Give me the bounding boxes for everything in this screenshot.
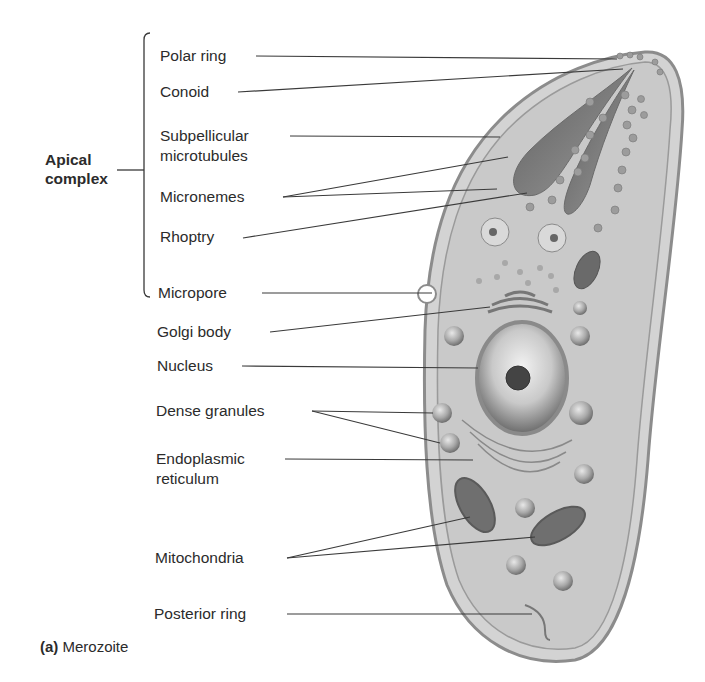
figure-caption: (a) Merozoite (40, 638, 128, 655)
caption-text: Merozoite (63, 638, 129, 655)
nucleus (477, 322, 567, 434)
label-dense-granules: Dense granules (156, 401, 265, 420)
label-conoid: Conoid (160, 82, 209, 101)
label-er-1: Endoplasmic (156, 449, 245, 468)
cell-illustration (0, 0, 705, 682)
caption-letter: (a) (40, 638, 58, 655)
label-rhoptry: Rhoptry (160, 227, 214, 246)
label-er-2: reticulum (156, 469, 219, 488)
label-posterior-ring: Posterior ring (154, 604, 246, 623)
label-polar-ring: Polar ring (160, 46, 226, 65)
label-nucleus: Nucleus (157, 356, 213, 375)
apical-complex-bracket (144, 33, 150, 297)
label-mitochondria: Mitochondria (155, 548, 244, 567)
label-micropore: Micropore (158, 283, 227, 302)
label-golgi: Golgi body (157, 322, 231, 341)
label-subpellicular-1: Subpellicular (160, 126, 249, 145)
apical-label-line2: complex (45, 169, 108, 188)
label-micronemes: Micronemes (160, 187, 244, 206)
apical-label-line1: Apical (45, 150, 92, 169)
merozoite-diagram: Apical complex Polar ring Conoid Subpell… (0, 0, 705, 682)
label-subpellicular-2: microtubules (160, 146, 248, 165)
